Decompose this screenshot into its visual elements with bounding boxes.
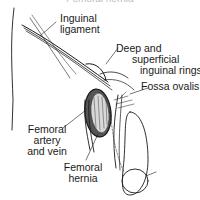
inguinal-ring: [86, 64, 106, 80]
label-line: ligament: [60, 24, 100, 35]
cord-lines: [146, 172, 156, 176]
ligament-band: [26, 31, 112, 90]
label-femoral-hernia: Femoral hernia: [60, 162, 106, 184]
label-line: hernia: [60, 173, 106, 184]
label-fossa-ovalis: Fossa ovalis: [141, 81, 199, 92]
spermatic-cord: [114, 95, 118, 168]
body-outline: [12, 8, 14, 130]
label-inguinal-rings: Deep and superficial inguinal rings: [116, 43, 200, 76]
spermatic-cord: [119, 95, 122, 170]
cord-lines: [110, 108, 124, 172]
label-line: Fossa ovalis: [141, 81, 199, 92]
label-line: inguinal rings: [116, 65, 200, 76]
label-inguinal-ligament: Inguinal ligament: [60, 13, 100, 35]
leader-inguinal-ligament: [40, 22, 56, 36]
scrotum: [122, 112, 148, 195]
label-femoral-artery-vein: Femoral artery and vein: [24, 124, 70, 157]
label-line: and vein: [24, 146, 70, 157]
femoral-hernia-diagram: Femoral hernia: [0, 0, 200, 200]
